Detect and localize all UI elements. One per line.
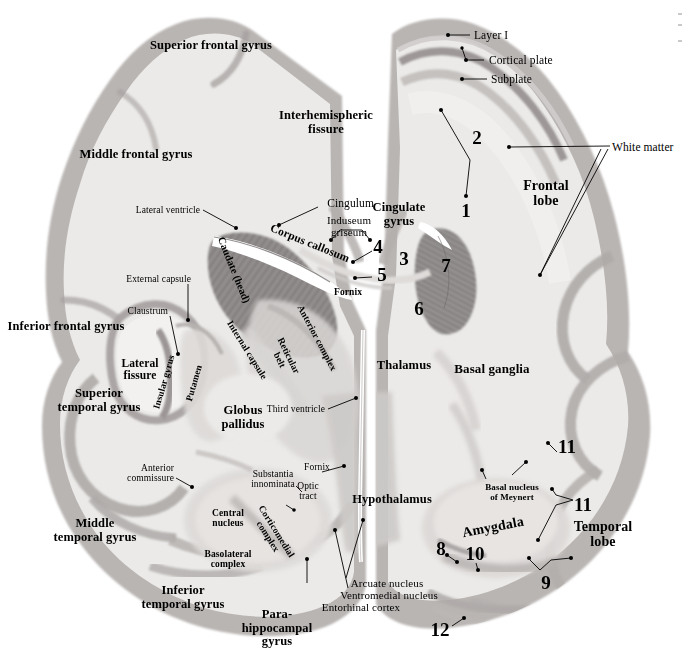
label-optic-tract: Optic tract	[297, 481, 319, 502]
label-temporal-lobe: Temporal lobe	[574, 519, 633, 549]
number-marker-2: 2	[472, 127, 482, 149]
label-central-nucleus: Central nucleus	[212, 508, 244, 529]
label-subplate: Subplate	[491, 73, 532, 85]
number-marker-6: 6	[414, 298, 424, 320]
label-superior-frontal-gyrus: Superior frontal gyrus	[150, 39, 272, 53]
label-globus-pallidus: Globus pallidus	[221, 404, 264, 431]
label-cingulate-gyrus: Cingulate gyrus	[373, 201, 426, 228]
number-marker-11: 11	[558, 436, 576, 458]
label-basal-nucleus-of-meynert: Basal nucleus of Meynert	[485, 483, 539, 502]
label-lateral-ventricle: Lateral ventricle	[136, 205, 200, 215]
scan-artifact	[678, 24, 682, 26]
scan-artifact	[678, 40, 682, 42]
label-substantia-innominata: Substantia innominata	[251, 469, 295, 490]
number-marker-4: 4	[373, 236, 383, 258]
label-claustrum: Claustrum	[128, 306, 168, 316]
label-middle-temporal-gyrus: Middle temporal gyrus	[54, 517, 137, 544]
number-marker-7: 7	[441, 255, 451, 277]
number-marker-9: 9	[541, 572, 551, 594]
label-inferior-frontal-gyrus: Inferior frontal gyrus	[7, 320, 124, 334]
label-parahippocampal-gyrus: Para- hippocampal gyrus	[242, 608, 313, 649]
label-external-capsule: External capsule	[126, 274, 191, 284]
label-cingulum: Cingulum	[327, 197, 374, 209]
number-marker-8: 8	[436, 538, 446, 560]
figure-canvas: Superior frontal gyrus Middle frontal gy…	[0, 0, 692, 663]
label-inferior-temporal-gyrus: Inferior temporal gyrus	[142, 584, 225, 611]
label-fornix-lower: Fornix	[304, 462, 330, 472]
number-marker-5: 5	[377, 264, 387, 286]
label-hypothalamus: Hypothalamus	[352, 493, 432, 507]
label-layer-i: Layer I	[474, 29, 508, 41]
number-marker-1: 1	[461, 200, 471, 222]
label-thalamus: Thalamus	[377, 359, 431, 373]
label-superior-temporal-gyrus: Superior temporal gyrus	[58, 387, 141, 414]
label-anterior-commissure: Anterior commissure	[127, 463, 174, 484]
number-marker-3: 3	[399, 248, 409, 270]
number-marker-11b: 11	[574, 494, 592, 516]
label-entorhinal-cortex: Entorhinal cortex	[322, 602, 400, 614]
number-marker-12: 12	[431, 619, 450, 641]
label-white-matter: White matter	[612, 141, 674, 153]
label-fornix-upper: Fornix	[334, 287, 362, 297]
label-cortical-plate: Cortical plate	[489, 54, 553, 66]
label-third-ventricle: Third ventricle	[267, 404, 325, 414]
label-basal-ganglia: Basal ganglia	[454, 362, 529, 376]
label-middle-frontal-gyrus: Middle frontal gyrus	[80, 148, 193, 162]
number-marker-10: 10	[466, 543, 485, 565]
label-lateral-fissure: Lateral fissure	[121, 357, 158, 382]
label-frontal-lobe: Frontal lobe	[523, 178, 569, 208]
label-interhemispheric-fissure: Interhemispheric fissure	[279, 109, 373, 136]
label-induseum-griseum: Induseum griseum	[327, 215, 371, 239]
scan-artifact	[678, 13, 682, 15]
label-basolateral-complex: Basolateral complex	[204, 549, 251, 570]
